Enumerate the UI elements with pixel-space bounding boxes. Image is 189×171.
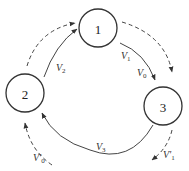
label-v2: V2 [56, 62, 66, 75]
label-v1: V1 [121, 50, 131, 63]
node-1-label: 1 [95, 22, 102, 37]
node-2-label: 2 [22, 87, 29, 102]
node-2: 2 [6, 74, 44, 112]
label-v1-prime: V'1 [163, 149, 175, 162]
node-3: 3 [144, 87, 182, 125]
node-3-label: 3 [160, 100, 167, 115]
label-v0: V0 [137, 67, 147, 80]
label-v0-prime: V'0 [33, 152, 45, 165]
node-1: 1 [79, 9, 117, 47]
cycle-diagram: 1 2 3 V1 V0 V2 V3 V'1 V'0 [0, 0, 189, 171]
